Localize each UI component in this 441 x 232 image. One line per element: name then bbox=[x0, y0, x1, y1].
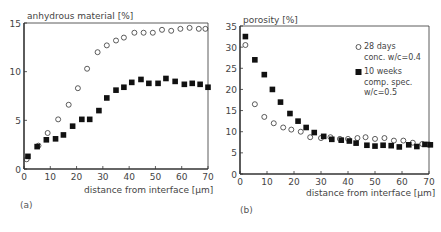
panel-label-a: (a) bbox=[20, 200, 33, 210]
svg-text:15: 15 bbox=[226, 106, 237, 116]
chart-b-ylabel: porosity [%] bbox=[243, 15, 298, 25]
legend-10-weeks-line1: 10 weeks bbox=[364, 67, 402, 76]
svg-text:25: 25 bbox=[226, 64, 237, 74]
legend-10-weeks-line2: comp. spec. bbox=[364, 78, 412, 87]
svg-text:15: 15 bbox=[10, 19, 21, 29]
chart-a-ylabel: anhydrous material [%] bbox=[27, 11, 133, 21]
svg-text:10: 10 bbox=[10, 67, 22, 77]
legend-28-days-line1: 28 days bbox=[364, 42, 396, 51]
legend-item-28-days: 28 days conc. w/c=0.4 bbox=[355, 42, 421, 63]
chart-a-ticks: 010203040506070051015 bbox=[10, 19, 214, 183]
svg-text:0: 0 bbox=[231, 170, 237, 180]
svg-text:50: 50 bbox=[150, 172, 162, 182]
svg-text:10: 10 bbox=[226, 127, 238, 137]
svg-text:50: 50 bbox=[369, 177, 381, 187]
panel-label-b: (b) bbox=[240, 205, 253, 215]
legend-28-days-line2: conc. w/c=0.4 bbox=[364, 53, 421, 62]
svg-text:70: 70 bbox=[202, 172, 214, 182]
chart-b-plot: 01020304050607005101520253035 porosity [… bbox=[220, 0, 441, 232]
svg-text:40: 40 bbox=[123, 172, 135, 182]
chart-anhydrous-material: 010203040506070051015 anhydrous material… bbox=[0, 0, 220, 232]
chart-a-plot: 010203040506070051015 anhydrous material… bbox=[0, 0, 220, 232]
chart-b-legend: 28 days conc. w/c=0.4 10 weeks comp. spe… bbox=[355, 42, 421, 99]
svg-text:60: 60 bbox=[396, 177, 408, 187]
svg-text:60: 60 bbox=[176, 172, 188, 182]
chart-b-xlabel: distance from interface [µm] bbox=[306, 188, 435, 198]
svg-text:30: 30 bbox=[315, 177, 327, 187]
open-circle-icon bbox=[355, 42, 364, 56]
legend-10-weeks-line3: w/c=0.5 bbox=[364, 88, 397, 97]
svg-text:20: 20 bbox=[71, 172, 83, 182]
svg-text:5: 5 bbox=[15, 116, 21, 126]
svg-text:30: 30 bbox=[97, 172, 109, 182]
legend-item-10-weeks: 10 weeks comp. spec. w/c=0.5 bbox=[355, 67, 421, 99]
svg-text:30: 30 bbox=[226, 43, 238, 53]
svg-text:10: 10 bbox=[45, 172, 57, 182]
svg-text:35: 35 bbox=[226, 22, 237, 32]
chart-a-data-points bbox=[24, 25, 211, 161]
svg-text:10: 10 bbox=[261, 177, 273, 187]
chart-a-frame bbox=[24, 23, 208, 169]
filled-square-icon bbox=[355, 67, 364, 81]
svg-text:40: 40 bbox=[342, 177, 354, 187]
svg-text:0: 0 bbox=[15, 165, 21, 175]
chart-a-xlabel: distance from interface [µm] bbox=[84, 185, 213, 195]
svg-text:0: 0 bbox=[237, 177, 243, 187]
svg-text:70: 70 bbox=[423, 177, 435, 187]
svg-text:0: 0 bbox=[21, 172, 27, 182]
svg-text:20: 20 bbox=[288, 177, 300, 187]
chart-porosity: 01020304050607005101520253035 porosity [… bbox=[220, 0, 441, 232]
svg-text:5: 5 bbox=[231, 148, 237, 158]
svg-text:20: 20 bbox=[226, 85, 238, 95]
